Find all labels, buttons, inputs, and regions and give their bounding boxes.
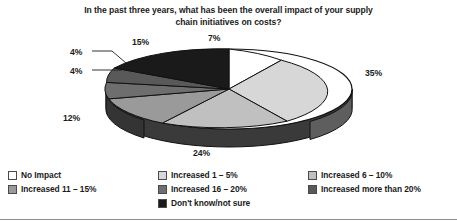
legend-item-increased-11-15: Increased 11 – 15% xyxy=(8,184,96,194)
pie-label-increased-11-15: 12% xyxy=(63,113,80,123)
legend-item-increased-1-5: Increased 1 – 5% xyxy=(158,170,238,180)
legend-label-dont-know: Don't know/not sure xyxy=(171,198,250,208)
legend-label-increased-1-5: Increased 1 – 5% xyxy=(171,170,238,180)
legend-swatch-increased-6-10 xyxy=(308,171,317,180)
legend-swatch-increased-11-15 xyxy=(8,185,17,194)
pie-chart-figure: In the past three years, what has been t… xyxy=(0,0,457,224)
legend-swatch-increased-1-5 xyxy=(158,171,167,180)
legend-label-increased-more-than-20: Increased more than 20% xyxy=(321,184,421,194)
pie-label-no-impact: 7% xyxy=(208,33,220,43)
legend-item-no-impact: No Impact xyxy=(8,170,61,180)
chart-title-line-1: In the past three years, what has been t… xyxy=(84,5,373,15)
legend-item-increased-16-20: Increased 16 – 20% xyxy=(158,184,247,194)
pie-graphic xyxy=(104,47,354,159)
pie-label-increased-6-10: 24% xyxy=(193,148,210,158)
pie-slices xyxy=(105,49,352,129)
pie-label-increased-16-20: 4% xyxy=(70,66,82,76)
legend-label-increased-16-20: Increased 16 – 20% xyxy=(171,184,247,194)
legend-label-no-impact: No Impact xyxy=(21,170,61,180)
legend-label-increased-11-15: Increased 11 – 15% xyxy=(21,184,96,194)
legend-item-increased-more-than-20: Increased more than 20% xyxy=(308,184,421,194)
legend-item-increased-6-10: Increased 6 – 10% xyxy=(308,170,392,180)
pie-label-increased-1-5: 35% xyxy=(365,68,382,78)
pie-label-increased-more-than-20: 4% xyxy=(70,47,82,57)
pie-label-dont-know: 15% xyxy=(132,37,149,47)
chart-title: In the past three years, what has been t… xyxy=(0,4,457,29)
legend-swatch-no-impact xyxy=(8,171,17,180)
pie-svg xyxy=(104,47,354,159)
footer-divider xyxy=(0,219,457,220)
chart-legend: No Impact Increased 1 – 5% Increased 6 –… xyxy=(0,170,457,212)
legend-swatch-dont-know xyxy=(158,199,167,208)
legend-swatch-increased-16-20 xyxy=(158,185,167,194)
legend-item-dont-know: Don't know/not sure xyxy=(158,198,250,208)
legend-label-increased-6-10: Increased 6 – 10% xyxy=(321,170,392,180)
legend-swatch-increased-more-than-20 xyxy=(308,185,317,194)
chart-title-line-2: chain initiatives on costs? xyxy=(175,17,281,27)
